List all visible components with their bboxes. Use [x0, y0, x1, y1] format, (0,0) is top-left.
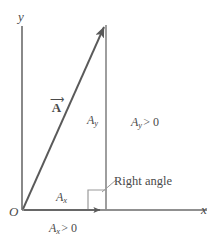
y-component-label: Ay [87, 114, 98, 128]
right-angle-label: Right angle [114, 175, 172, 188]
ax-positive-relation: > 0 [60, 221, 77, 235]
diagram-canvas [0, 0, 220, 242]
ay-positive-relation: > 0 [142, 115, 159, 129]
ax-positive-annotation: Ax> 0 [49, 222, 77, 236]
x-component-label: Ax [56, 191, 67, 205]
ay-positive-annotation: Ay> 0 [131, 116, 159, 130]
x-component-subscript: x [63, 195, 67, 205]
x-axis-label: x [201, 203, 207, 216]
vector-a-label: ⟶ A [50, 97, 63, 114]
y-component-subscript: y [94, 118, 98, 128]
vector-components-diagram: y x O ⟶ A Ay Ax Ay> 0 Ax> 0 Right angle [0, 0, 220, 242]
right-angle-marker [88, 190, 107, 210]
y-axis-label: y [18, 10, 24, 23]
vector-a-symbol: A [50, 102, 63, 114]
origin-label: O [9, 205, 18, 218]
